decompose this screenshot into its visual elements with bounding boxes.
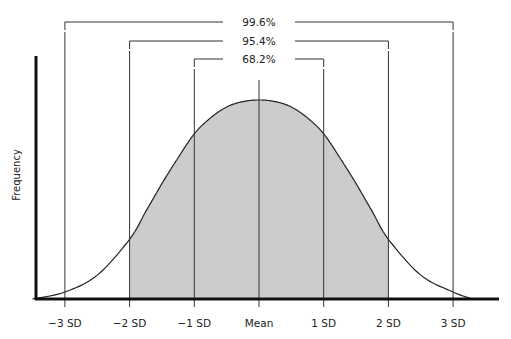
x-tick-label: 3 SD: [441, 317, 466, 329]
bracket-label: 95.4%: [242, 35, 275, 47]
x-tick-label: −2 SD: [113, 317, 147, 329]
y-axis-label: Frequency: [11, 149, 22, 201]
x-tick-label: −3 SD: [48, 317, 82, 329]
x-tick-label: −1 SD: [178, 317, 212, 329]
bracket-label: 99.6%: [242, 16, 275, 28]
x-tick-label: 1 SD: [311, 317, 336, 329]
x-tick-label: Mean: [245, 317, 274, 329]
normal-distribution-diagram: 99.6%95.4%68.2% Frequency −3 SD−2 SD−1 S…: [0, 0, 511, 339]
x-tick-label: 2 SD: [376, 317, 401, 329]
bracket-label: 68.2%: [242, 53, 275, 65]
